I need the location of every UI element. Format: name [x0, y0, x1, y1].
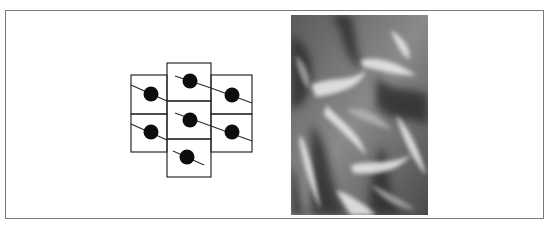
tiled-cell-diagram: [0, 0, 550, 227]
fabric-photo-image: [291, 15, 428, 215]
fabric-photo: [291, 15, 428, 215]
dots: [144, 74, 240, 165]
